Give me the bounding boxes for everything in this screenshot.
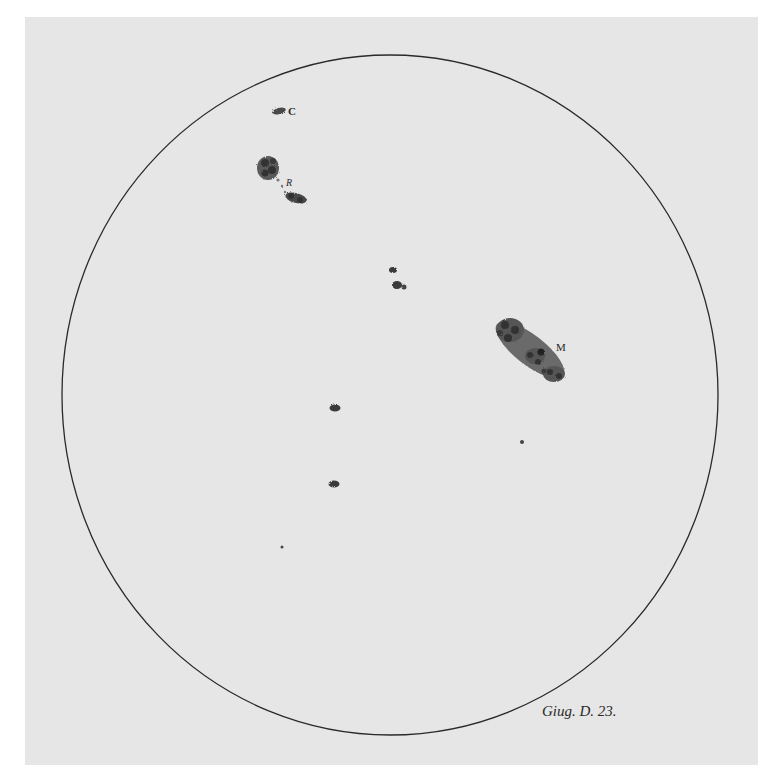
spot-group-r [257,156,308,206]
spot-group-c [271,106,286,115]
dot-lower-left [281,546,284,549]
label-m: M [556,341,566,353]
caption-date: Giug. D. 23. [542,703,617,719]
label-r: R [285,177,292,188]
spot-lower-1 [330,405,341,412]
sunspot-drawing: C R M Giug. D. 23. [0,0,781,775]
label-c: C [288,105,296,117]
solar-disk-outline [62,55,718,735]
spot-pair-center [389,267,407,290]
dot-right [520,440,524,444]
spot-lower-2 [329,481,340,488]
